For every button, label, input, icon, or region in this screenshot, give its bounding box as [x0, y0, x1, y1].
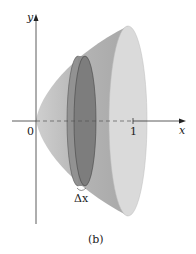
- delta-x-label: Δx: [74, 193, 88, 204]
- x-axis-arrow-icon: [179, 119, 186, 124]
- y-axis-arrow-icon: [34, 14, 39, 21]
- delta-x-bracket: [77, 188, 86, 191]
- x-axis-label: x: [179, 125, 185, 136]
- origin-label: 0: [27, 126, 34, 137]
- x-tick-label-1: 1: [130, 126, 137, 137]
- y-axis-label: y: [27, 12, 33, 23]
- figure-caption: (b): [88, 234, 104, 245]
